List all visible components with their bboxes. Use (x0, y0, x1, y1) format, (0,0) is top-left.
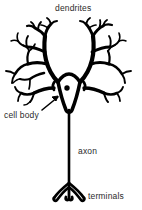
right-dendrite-twig-d4 (108, 51, 110, 64)
left-dendrite-tree (6, 18, 58, 105)
cell-body-soma (58, 74, 80, 112)
right-dendrite-twig-e3 (117, 93, 120, 101)
right-dendrite-twig-d1 (109, 64, 122, 74)
left-dendrite-branch-c (35, 28, 45, 36)
left-dendrite-branch-a3 (27, 51, 29, 64)
neuron-illustration (0, 0, 142, 210)
left-dendrite-twig-e3 (18, 93, 21, 101)
right-dendrite-branch-d (91, 63, 109, 65)
left-dendrite-twig-f3 (29, 79, 30, 89)
right-dendrite-twig-b3 (89, 25, 96, 28)
label-dendrites: dendrites (55, 3, 91, 13)
right-dendrite-branch-e (84, 88, 104, 93)
right-dendrite-twig-d3 (122, 71, 131, 74)
left-dendrite-twig-d1 (51, 21, 57, 24)
left-dendrite-branch-a (28, 63, 47, 65)
right-dendrite-twig-d2 (122, 74, 125, 83)
right-dendrite-twig-e2 (117, 87, 123, 93)
left-dendrite-twig-e1 (21, 93, 34, 95)
left-dendrite-branch-f (30, 73, 44, 79)
left-dendrite-branch-a2 (15, 64, 28, 74)
left-dendrite-twig-b4 (26, 36, 28, 47)
right-dendrite-twig-e1 (104, 93, 117, 95)
label-axon: axon (78, 146, 97, 156)
label-terminals: terminals (88, 191, 124, 201)
left-dendrite-twig-c3 (38, 22, 41, 30)
left-dendrite-twig-e2 (15, 87, 21, 93)
left-dendrite-trunk (44, 36, 58, 82)
left-dendrite-twig-d3 (41, 25, 48, 28)
label-cell-body: cell body (4, 110, 39, 120)
axon-terminals (54, 183, 85, 201)
left-dendrite-twig-b2 (17, 33, 18, 41)
right-dendrite-branch-a (93, 26, 103, 36)
right-dendrite-twig-c2 (119, 33, 120, 41)
left-dendrite-branch-e (34, 88, 54, 93)
left-dendrite-twig-b3 (11, 40, 18, 41)
left-dendrite-twig-e5 (24, 102, 30, 105)
left-dendrite-twig-a2 (6, 71, 15, 74)
left-dendrite-twig-f1 (20, 79, 30, 80)
nucleus-dot (64, 85, 69, 90)
left-dendrite-twig-f2 (13, 79, 20, 83)
right-dendrite-twig-c4 (109, 36, 111, 47)
right-dendrite-twig-a3 (99, 20, 100, 29)
right-dendrite-tree (80, 18, 131, 102)
right-dendrite-twig-c3 (119, 40, 126, 41)
cell-body-pointer-arrow (42, 96, 58, 110)
right-dendrite-twig-b2 (86, 18, 90, 24)
left-dendrite-twig-d2 (47, 18, 51, 24)
right-dendrite-twig-b1 (80, 21, 86, 24)
neuron-diagram: dendrites cell body axon terminals (0, 0, 142, 210)
right-dendrite-trunk (80, 36, 94, 82)
